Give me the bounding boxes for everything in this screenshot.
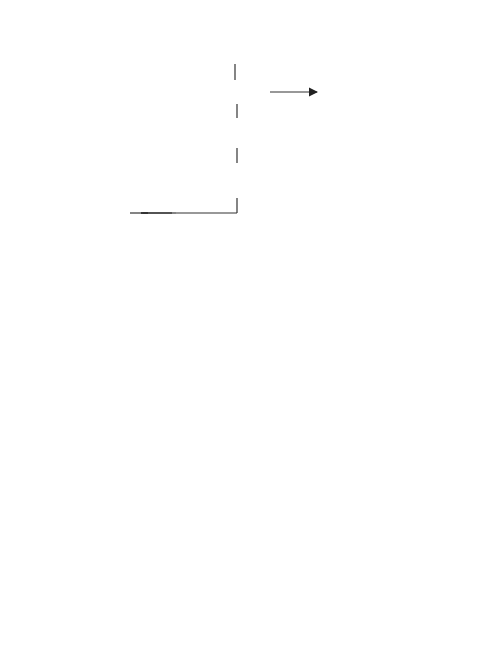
connector-lines — [0, 0, 478, 661]
